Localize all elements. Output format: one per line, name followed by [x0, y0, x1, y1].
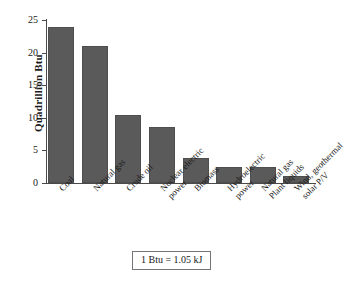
y-tick-label: 25 [12, 15, 38, 25]
y-tick-label: 15 [12, 80, 38, 90]
plot-area [46, 20, 315, 183]
y-tick-label: 0 [12, 178, 38, 188]
y-tick-label: 5 [12, 145, 38, 155]
y-tick-label: 10 [12, 113, 38, 123]
bar [48, 27, 74, 183]
footnote-box: 1 Btu = 1.05 kJ [132, 251, 211, 270]
y-tick-label: 20 [12, 48, 38, 58]
y-tick-mark [42, 183, 46, 184]
bar [82, 46, 108, 183]
